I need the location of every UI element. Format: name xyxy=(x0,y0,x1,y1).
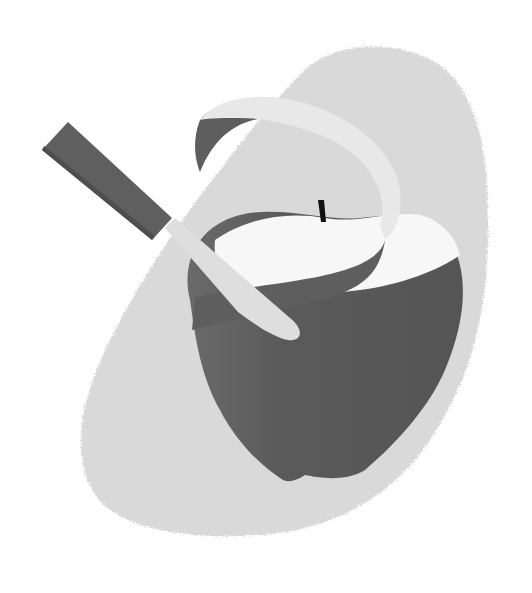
apple-peeling-illustration xyxy=(0,0,532,593)
knife-handle xyxy=(42,122,172,240)
